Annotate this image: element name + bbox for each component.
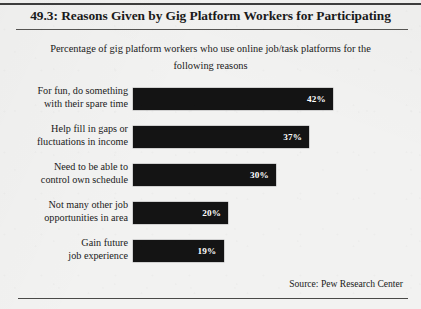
bar-value-label: 30% — [250, 170, 269, 180]
bar-value-label: 42% — [307, 94, 326, 104]
figure-page: 49.3: Reasons Given by Gig Platform Work… — [0, 0, 421, 309]
category-label-line-1: Help fill in gaps or — [51, 123, 128, 134]
top-divider-rule — [0, 3, 421, 5]
bar[interactable]: 37% — [133, 126, 309, 148]
chart-row: For fun, do something with their spare t… — [0, 84, 421, 114]
bar[interactable]: 30% — [133, 164, 276, 186]
category-label: Need to be able to control own schedule — [4, 160, 128, 186]
bar-track: 42% — [133, 88, 333, 110]
title-divider-rule — [16, 29, 408, 30]
category-label-line-1: For fun, do something — [37, 85, 128, 96]
bar-track: 37% — [133, 126, 309, 148]
category-label-line-2: with their spare time — [4, 97, 128, 110]
category-label-line-1: Not many other job — [48, 199, 128, 210]
chart-row: Not many other job opportunities in area… — [0, 198, 421, 228]
category-label-line-1: Gain future — [81, 237, 128, 248]
category-label: Help fill in gaps or fluctuations in inc… — [4, 122, 128, 148]
category-label-line-2: control own schedule — [4, 173, 128, 186]
bar-value-label: 19% — [198, 246, 217, 256]
category-label-line-2: job experience — [4, 249, 128, 262]
figure-subtitle: Percentage of gig platform workers who u… — [50, 41, 371, 74]
category-label-line-1: Need to be able to — [54, 161, 128, 172]
bar-track: 19% — [133, 240, 224, 262]
category-label: Gain future job experience — [4, 236, 128, 262]
bottom-divider-rule — [18, 298, 408, 299]
chart-row: Help fill in gaps or fluctuations in inc… — [0, 122, 421, 152]
chart-row: Gain future job experience 19% — [0, 236, 421, 266]
bar-value-label: 20% — [202, 208, 221, 218]
chart-row: Need to be able to control own schedule … — [0, 160, 421, 190]
bar-track: 30% — [133, 164, 276, 186]
bar[interactable]: 42% — [133, 88, 333, 110]
figure-title: 49.3: Reasons Given by Gig Platform Work… — [0, 8, 421, 24]
category-label-line-2: fluctuations in income — [4, 135, 128, 148]
category-label: For fun, do something with their spare t… — [4, 84, 128, 110]
category-label: Not many other job opportunities in area — [4, 198, 128, 224]
source-attribution: Source: Pew Research Center — [289, 278, 403, 289]
category-label-line-2: opportunities in area — [4, 211, 128, 224]
bar-value-label: 37% — [283, 132, 302, 142]
bar-chart: For fun, do something with their spare t… — [0, 84, 421, 270]
bar[interactable]: 20% — [133, 202, 228, 224]
bar-track: 20% — [133, 202, 228, 224]
bar[interactable]: 19% — [133, 240, 224, 262]
figure-subtitle-line-1: Percentage of gig platform workers who u… — [50, 43, 298, 54]
